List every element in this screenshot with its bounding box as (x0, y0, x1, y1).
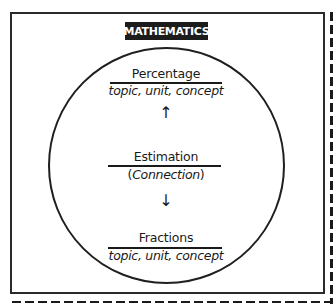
top-node-subtitle: topic, unit, concept (0, 84, 333, 98)
close-paren: ) (200, 167, 205, 182)
bottom-node-subtitle: topic, unit, concept (0, 249, 333, 263)
center-node-subtitle: (Connection) (0, 168, 333, 182)
title-badge: MATHEMATICS (125, 22, 208, 40)
top-node-title: Percentage (0, 67, 333, 81)
arrow-down-icon: ↓ (156, 192, 176, 210)
title-badge-label: MATHEMATICS (124, 26, 210, 37)
center-node-subtitle-text: Connection (132, 167, 200, 182)
dashed-border-bottom (12, 301, 333, 303)
center-node-title: Estimation (0, 150, 333, 164)
arrow-up-icon: ↑ (156, 104, 176, 122)
bottom-node-title: Fractions (0, 231, 333, 245)
